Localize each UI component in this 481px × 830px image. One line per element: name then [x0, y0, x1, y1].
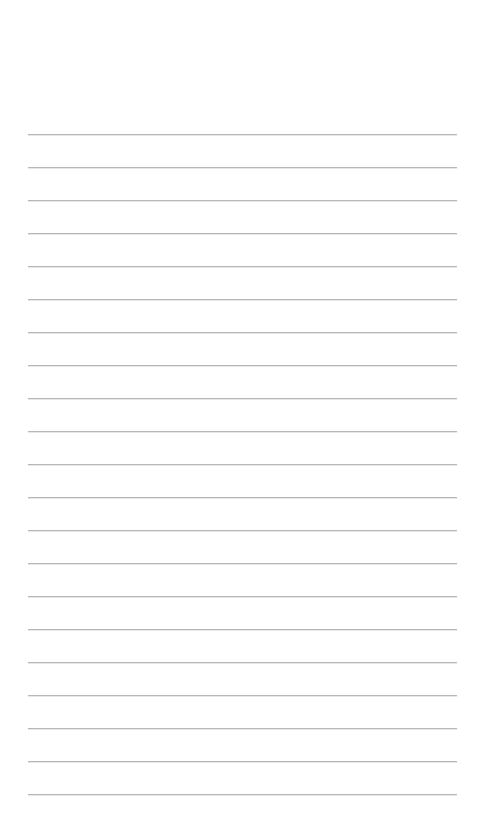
rule-line [28, 266, 457, 267]
rule-line [28, 563, 457, 564]
rule-line [28, 761, 457, 762]
ruled-lines-group [0, 0, 481, 830]
rule-line [28, 629, 457, 630]
rule-line [28, 530, 457, 531]
rule-line [28, 233, 457, 234]
rule-line [28, 299, 457, 300]
rule-line [28, 134, 457, 135]
rule-line [28, 596, 457, 597]
rule-line [28, 200, 457, 201]
rule-line [28, 497, 457, 498]
notepaper-page [0, 0, 481, 830]
rule-line [28, 728, 457, 729]
rule-line [28, 695, 457, 696]
rule-line [28, 365, 457, 366]
rule-line [28, 398, 457, 399]
rule-line [28, 464, 457, 465]
rule-line [28, 662, 457, 663]
rule-line [28, 167, 457, 168]
page-footer-blank-area [0, 794, 481, 830]
rule-line [28, 431, 457, 432]
rule-line [28, 332, 457, 333]
